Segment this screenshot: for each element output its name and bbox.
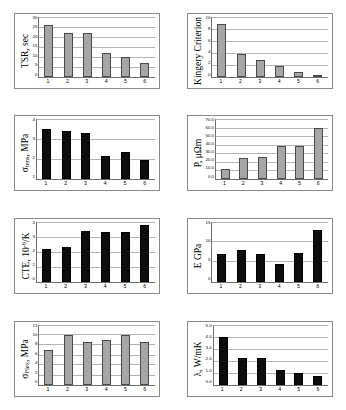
x-axis-ticks: 123456 bbox=[33, 180, 155, 187]
x-tick-label: 2 bbox=[237, 386, 246, 393]
bar bbox=[294, 253, 303, 282]
chart-cell-sigma-flex: σFlex, MPa121086420123456 bbox=[0, 307, 173, 410]
y-axis-title-wrap: σtens, MPa bbox=[18, 119, 33, 187]
bar bbox=[294, 373, 303, 385]
y-tick-label: 1.0 bbox=[206, 369, 212, 373]
x-tick-row: 123456 bbox=[38, 78, 154, 85]
bar bbox=[102, 53, 111, 77]
bar bbox=[121, 57, 130, 77]
x-tick-label: 3 bbox=[256, 386, 265, 393]
y-axis-title-wrap: TSR, sec bbox=[18, 17, 33, 85]
chart-panel-thermal-conductivity: λ, W/mK5.04.03.02.01.00.0123456 bbox=[187, 321, 333, 397]
x-tick-label: 2 bbox=[63, 386, 72, 393]
chart-area: 5.04.03.02.01.00.0123456 bbox=[206, 325, 328, 393]
bar bbox=[140, 225, 149, 282]
chart-area: 121086420123456 bbox=[33, 325, 155, 393]
x-axis-ticks: 123456 bbox=[33, 283, 155, 290]
bar bbox=[101, 232, 110, 282]
x-tick-label: 3 bbox=[257, 180, 266, 187]
y-tick-label: 1 bbox=[33, 263, 35, 267]
y-tick-label: 4 bbox=[33, 221, 35, 225]
y-axis-title-subscript: tens bbox=[23, 157, 30, 167]
bar bbox=[62, 247, 71, 282]
x-tick-label: 6 bbox=[140, 283, 149, 290]
x-tick-label: 2 bbox=[236, 283, 245, 290]
plot-canvas bbox=[211, 222, 327, 283]
y-axis-title: σtens, MPa bbox=[20, 134, 30, 172]
y-tick-label: 6 bbox=[208, 39, 210, 43]
bar bbox=[295, 146, 304, 179]
x-tick-label: 6 bbox=[140, 386, 149, 393]
x-tick-label: 4 bbox=[102, 78, 111, 85]
x-axis-ticks: 123456 bbox=[33, 78, 155, 85]
y-tick-label: 60.0 bbox=[206, 126, 215, 130]
x-tick-label: 6 bbox=[140, 78, 149, 85]
chart-area: 43210123456 bbox=[33, 222, 155, 290]
y-tick-label: 30 bbox=[33, 16, 38, 20]
y-tick-label: 5.0 bbox=[206, 324, 212, 328]
plot-canvas bbox=[213, 325, 328, 386]
bar bbox=[83, 33, 92, 77]
y-tick-label: 50.0 bbox=[206, 134, 215, 138]
y-tick-label: 10 bbox=[206, 239, 211, 243]
x-axis-spacer bbox=[206, 180, 216, 187]
y-tick-label: 0 bbox=[35, 380, 37, 384]
bar-series bbox=[37, 119, 155, 179]
bar bbox=[217, 24, 226, 77]
bar-series bbox=[216, 119, 327, 179]
y-tick-label: 20.0 bbox=[206, 158, 215, 162]
plot-row: 5.04.03.02.01.00.0 bbox=[206, 325, 328, 386]
y-tick-label: 2 bbox=[35, 371, 37, 375]
x-axis-ticks: 123456 bbox=[33, 386, 155, 393]
x-tick-row: 123456 bbox=[211, 283, 327, 290]
y-axis-title-wrap: E GPa bbox=[191, 222, 206, 290]
x-tick-label: 1 bbox=[217, 78, 226, 85]
bar bbox=[42, 129, 51, 179]
bar bbox=[313, 230, 322, 282]
x-tick-label: 5 bbox=[294, 78, 303, 85]
bar-series bbox=[214, 325, 328, 385]
x-tick-label: 4 bbox=[275, 283, 284, 290]
x-tick-label: 4 bbox=[276, 180, 285, 187]
x-tick-row: 123456 bbox=[215, 180, 327, 187]
x-tick-label: 5 bbox=[120, 283, 129, 290]
y-axis-title-wrap: Kingery Criterion bbox=[191, 17, 206, 85]
y-tick-label: 4 bbox=[33, 118, 35, 122]
chart-area: 70.060.050.040.030.020.010.00.0123456 bbox=[206, 119, 328, 187]
bar bbox=[140, 63, 149, 77]
y-tick-label: 5 bbox=[35, 63, 37, 67]
x-tick-label: 4 bbox=[101, 283, 110, 290]
y-tick-label: 12 bbox=[33, 324, 38, 328]
x-tick-label: 2 bbox=[236, 78, 245, 85]
y-tick-label: 4 bbox=[35, 361, 37, 365]
x-tick-label: 3 bbox=[255, 283, 264, 290]
chart-cell-cte: CTE, 10-6/K43210123456 bbox=[0, 204, 173, 307]
x-axis-ticks: 123456 bbox=[206, 180, 328, 187]
y-tick-label: 2.0 bbox=[206, 357, 212, 361]
plot-canvas bbox=[215, 119, 327, 180]
bar bbox=[237, 54, 246, 77]
chart-cell-tsr: TSR, sec302520151050123456 bbox=[0, 0, 173, 102]
y-axis-title: σFlex, MPa bbox=[20, 339, 30, 378]
x-tick-label: 5 bbox=[121, 386, 130, 393]
x-tick-label: 5 bbox=[295, 180, 304, 187]
chart-panel-resistivity: P, μΩm70.060.050.040.030.020.010.00.0123… bbox=[187, 115, 333, 191]
y-tick-label: 2 bbox=[33, 156, 35, 160]
bar bbox=[258, 157, 267, 179]
bar bbox=[237, 250, 246, 282]
bar bbox=[81, 231, 90, 282]
bar bbox=[238, 358, 247, 384]
x-tick-label: 6 bbox=[313, 386, 322, 393]
y-tick-label: 0.0 bbox=[206, 380, 212, 384]
x-tick-label: 3 bbox=[81, 180, 90, 187]
bar bbox=[81, 133, 90, 179]
y-tick-label: 10 bbox=[206, 16, 211, 20]
x-tick-label: 4 bbox=[101, 180, 110, 187]
chart-panel-youngs-modulus: E GPa151050123456 bbox=[187, 218, 333, 294]
y-axis-title: CTE, 10-6/K bbox=[20, 232, 31, 279]
y-tick-label: 30.0 bbox=[206, 150, 215, 154]
x-tick-label: 1 bbox=[44, 78, 53, 85]
bar-series bbox=[37, 222, 155, 282]
y-tick-label: 15 bbox=[33, 44, 38, 48]
x-tick-label: 6 bbox=[313, 78, 322, 85]
